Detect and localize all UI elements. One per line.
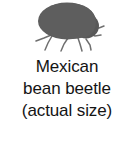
caption-line-2: bean beetle: [0, 78, 134, 100]
caption-line-3: (actual size): [0, 100, 134, 122]
caption: Mexican bean beetle (actual size): [0, 56, 134, 122]
caption-line-1: Mexican: [0, 56, 134, 78]
beetle-silhouette-icon: [0, 0, 134, 56]
beetle-figure: Mexican bean beetle (actual size): [0, 0, 134, 148]
beetle-illustration: [0, 0, 134, 56]
beetle-body: [38, 3, 99, 40]
